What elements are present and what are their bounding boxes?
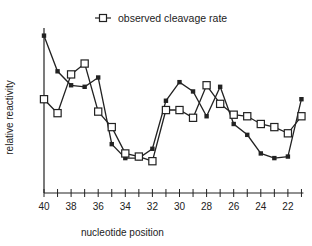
open-square-marker [244,113,251,120]
x-tick-label: 34 [120,201,132,212]
series-lines [40,33,305,164]
filled-square-marker [82,85,86,89]
filled-square-marker [272,156,276,160]
filled-square-marker [150,147,154,151]
open-square-marker [189,114,196,121]
open-square-marker [40,96,47,103]
x-tick-label: 22 [282,201,294,212]
open-square-marker [135,153,142,160]
open-square-marker [54,110,61,117]
filled-square-marker [164,99,168,103]
y-axis-label: relative reactivity [4,68,15,168]
line-chart: 40383634323028262422 [0,0,312,246]
x-tick-label: 24 [255,201,267,212]
x-tick-label: 26 [228,201,240,212]
filled-square-marker [286,154,290,158]
open-square-marker [203,82,210,89]
filled-square-marker [55,69,59,73]
open-square-marker [162,106,169,113]
x-tick-label: 40 [38,201,50,212]
filled-square-marker [69,83,73,87]
filled-square-marker [110,142,114,146]
open-square-marker [122,150,129,157]
series-line-1 [44,64,301,162]
filled-square-marker [245,133,249,137]
x-tick-label: 36 [93,201,105,212]
x-axis-label: nucleotide position [81,227,164,238]
filled-square-marker [191,89,195,93]
open-square-marker [95,108,102,115]
open-square-marker-icon [94,11,112,25]
filled-square-marker [232,122,236,126]
filled-square-marker [96,75,100,79]
x-tick-label: 28 [201,201,213,212]
legend: observed cleavage rate [94,11,227,25]
filled-square-marker [259,151,263,155]
series-line-0 [44,36,301,158]
legend-label: observed cleavage rate [118,12,227,24]
open-square-marker [149,158,156,165]
filled-square-marker [42,33,46,37]
filled-square-marker [218,85,222,89]
open-square-marker [298,113,305,120]
open-square-marker [284,130,291,137]
x-tick-label: 30 [174,201,186,212]
filled-square-marker [177,80,181,84]
open-square-marker [108,124,115,131]
open-square-marker [176,106,183,113]
open-square-marker [257,120,264,127]
filled-square-marker [299,97,303,101]
x-tick-label: 32 [147,201,159,212]
open-square-marker [230,111,237,118]
open-square-marker [68,71,75,78]
open-square-marker [217,100,224,107]
filled-square-marker [204,114,208,118]
open-square-marker [81,60,88,67]
x-tick-label: 38 [66,201,78,212]
open-square-marker [271,124,278,131]
